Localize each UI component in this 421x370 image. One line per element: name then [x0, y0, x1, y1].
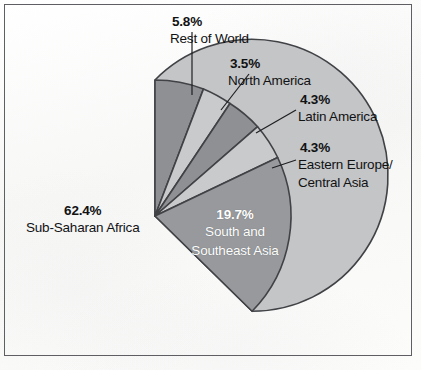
slice-label-south-southeast-asia: 19.7% South and Southeast Asia [175, 207, 295, 259]
slice-name-sub-saharan-africa: Sub-Saharan Africa [26, 220, 139, 235]
slice-label-north-america: 3.5% North America [228, 56, 311, 89]
slice-name-eastern-europe-line1: Eastern Europe/ [298, 157, 393, 172]
slice-label-latin-america: 4.3% Latin America [298, 92, 377, 125]
slice-label-rest-of-world: 5.8% Rest of World [170, 14, 249, 47]
slice-name-south-southeast-asia-line1: South and [205, 224, 265, 239]
slice-name-north-america: North America [228, 73, 311, 88]
slice-percent-rest-of-world: 5.8% [172, 14, 249, 29]
slice-name-south-southeast-asia-line2: Southeast Asia [191, 243, 278, 258]
slice-percent-north-america: 3.5% [230, 56, 311, 71]
pie-chart-figure: 5.8% Rest of World 3.5% North America 4.… [0, 0, 421, 370]
slice-name-rest-of-world: Rest of World [170, 31, 249, 46]
slice-label-eastern-europe-central-asia: 4.3% Eastern Europe/ Central Asia [298, 140, 393, 191]
slice-percent-south-southeast-asia: 19.7% [175, 207, 295, 222]
slice-label-sub-saharan-africa: 62.4% Sub-Saharan Africa [26, 203, 139, 236]
slice-percent-eastern-europe: 4.3% [300, 140, 393, 155]
slice-percent-sub-saharan-africa: 62.4% [26, 203, 139, 218]
slice-name-latin-america: Latin America [298, 109, 377, 124]
slice-percent-latin-america: 4.3% [300, 92, 377, 107]
slice-name-eastern-europe-line2: Central Asia [298, 175, 368, 190]
